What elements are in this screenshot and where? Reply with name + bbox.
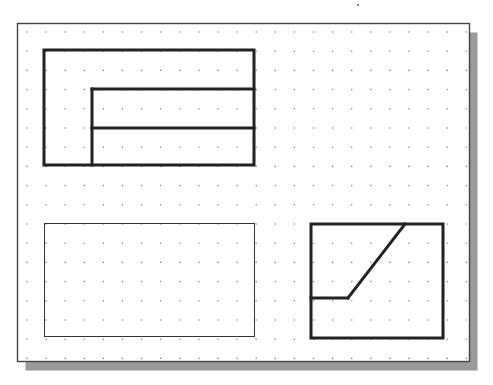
grid-dot [332, 204, 334, 206]
grid-dot [408, 319, 410, 321]
grid-dot [84, 108, 86, 110]
grid-dot [313, 281, 315, 283]
grid-dot [351, 204, 353, 206]
grid-dot [64, 70, 66, 72]
grid-dot [446, 50, 448, 52]
grid-dot [26, 70, 28, 72]
grid-dot [427, 300, 429, 302]
grid-dot [351, 262, 353, 264]
grid-dot [313, 319, 315, 321]
grid-dot [45, 262, 47, 264]
grid-dot [141, 358, 143, 360]
grid-dot [160, 242, 162, 244]
grid-dot [275, 338, 277, 340]
grid-dot [160, 108, 162, 110]
grid-dot [466, 338, 468, 340]
grid-dot [103, 185, 105, 187]
grid-dot [160, 262, 162, 264]
grid-dot [255, 319, 257, 321]
grid-dot [198, 300, 200, 302]
grid-dot [427, 70, 429, 72]
grid-dot [122, 31, 124, 33]
grid-dot [427, 31, 429, 33]
grid-dot [26, 108, 28, 110]
grid-dot [466, 319, 468, 321]
grid-dot [370, 146, 372, 148]
grid-dot [351, 108, 353, 110]
grid-dot [446, 300, 448, 302]
grid-dot [122, 242, 124, 244]
grid-dot [466, 127, 468, 129]
grid-dot [160, 300, 162, 302]
grid-dot [103, 242, 105, 244]
grid-dot [255, 31, 257, 33]
grid-dot [160, 146, 162, 148]
grid-dot [466, 146, 468, 148]
grid-dot [275, 185, 277, 187]
grid-dot [84, 31, 86, 33]
grid-dot [427, 108, 429, 110]
grid-dot [427, 358, 429, 360]
grid-dot [294, 319, 296, 321]
grid-dot [236, 262, 238, 264]
grid-dot [103, 338, 105, 340]
grid-dot [427, 242, 429, 244]
grid-dot [427, 89, 429, 91]
grid-dot [446, 70, 448, 72]
grid-dot [389, 70, 391, 72]
drawing-canvas[interactable] [0, 0, 493, 385]
grid-dot [275, 358, 277, 360]
grid-dot [370, 262, 372, 264]
grid-dot [198, 108, 200, 110]
grid-dot [217, 262, 219, 264]
grid-dot [141, 281, 143, 283]
grid-dot [466, 262, 468, 264]
grid-dot [275, 262, 277, 264]
grid-dot [64, 319, 66, 321]
grid-dot [141, 146, 143, 148]
grid-dot [236, 204, 238, 206]
grid-dot [217, 185, 219, 187]
stray-mark [357, 4, 359, 6]
grid-dot [141, 338, 143, 340]
grid-dot [446, 146, 448, 148]
grid-dot [122, 358, 124, 360]
grid-dot [84, 127, 86, 129]
grid-dot [198, 204, 200, 206]
grid-dot [103, 262, 105, 264]
grid-dot [198, 281, 200, 283]
grid-dot [103, 204, 105, 206]
grid-dot [332, 70, 334, 72]
grid-dot [64, 338, 66, 340]
grid-dot [294, 127, 296, 129]
grid-dot [179, 242, 181, 244]
grid-dot [179, 262, 181, 264]
grid-dot [64, 146, 66, 148]
grid-dot [294, 89, 296, 91]
grid-dot [141, 242, 143, 244]
grid-dot [446, 358, 448, 360]
grid-dot [160, 31, 162, 33]
grid-dot [389, 166, 391, 168]
grid-dot [408, 281, 410, 283]
grid-dot [160, 319, 162, 321]
grid-dot [236, 185, 238, 187]
grid-dot [446, 166, 448, 168]
grid-dot [351, 281, 353, 283]
grid-dot [408, 204, 410, 206]
grid-dot [332, 358, 334, 360]
grid-dot [370, 166, 372, 168]
grid-dot [389, 127, 391, 129]
grid-dot [370, 300, 372, 302]
grid-dot [255, 166, 257, 168]
grid-dot [236, 108, 238, 110]
grid-dot [427, 166, 429, 168]
grid-dot [198, 358, 200, 360]
grid-dot [217, 338, 219, 340]
grid-dot [370, 89, 372, 91]
grid-dot [275, 108, 277, 110]
grid-dot [26, 146, 28, 148]
grid-dot [446, 89, 448, 91]
grid-dot [236, 70, 238, 72]
grid-dot [446, 281, 448, 283]
